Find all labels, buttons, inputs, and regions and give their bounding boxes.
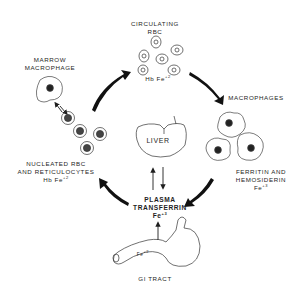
formula-base: Fe [153,212,162,219]
nucleated-rbc-line2: AND RETICULOCYTES [16,168,96,176]
liver-plasma-arrows-icon [153,167,163,190]
formula-base: Hb Fe [145,75,165,82]
macrophages-icon [206,112,263,160]
diagram-graphics [0,0,299,307]
formula-charge: +3 [262,183,268,188]
plasma-transferrin-line1: PLASMA [120,196,200,204]
nucleated-rbc-icon [62,112,107,155]
macrophages-line2: HEMOSIDERIN [226,176,296,184]
macrophages-storage-label: FERRITIN AND HEMOSIDERIN Fe+3 [226,168,296,192]
plasma-transferrin-label: PLASMA TRANSFERRIN Fe+3 [120,196,200,220]
nucleated-rbc-line1: NUCLEATED RBC [16,160,96,168]
macrophages-line1: FERRITIN AND [226,168,296,176]
plasma-transferrin-formula: Fe+3 [120,212,200,220]
marrow-macrophage-icon [36,76,62,102]
liver-label: LIVER [143,137,173,145]
gi-tract-label: GI TRACT [130,275,180,283]
formula-charge: +3 [162,211,168,216]
macrophages-formula: Fe+3 [226,184,296,192]
gi-tract-icon [113,217,200,266]
formula-base: Hb Fe [43,176,63,183]
marrow-macrophage-line2: MACROPHAGE [20,64,80,72]
formula-charge: +2 [165,74,171,79]
formula-charge: +2 [143,249,149,254]
plasma-transferrin-line2: TRANSFERRIN [120,204,200,212]
circulating-rbc-line1: CIRCULATING [118,20,192,28]
marrow-macrophage-label: MARROW MACROPHAGE [20,56,80,72]
macrophages-label: MACROPHAGES [214,94,298,102]
circulating-rbc-label: CIRCULATING RBC [118,20,192,36]
circulating-rbc-formula: Hb Fe+2 [136,75,180,83]
marrow-exchange-arrow-icon [56,104,66,113]
nucleated-rbc-formula: Hb Fe+2 [16,176,96,184]
rbc-cells-icon [138,36,183,75]
nucleated-rbc-label: NUCLEATED RBC AND RETICULOCYTES Hb Fe+2 [16,160,96,184]
iron-cycle-diagram: CIRCULATING RBC Hb Fe+2 MARROW MACROPHAG… [0,0,299,307]
formula-charge: +2 [63,175,69,180]
gi-tract-inner-formula: Fe+2 [132,251,154,259]
circulating-rbc-line2: RBC [118,28,192,36]
marrow-macrophage-line1: MARROW [20,56,80,64]
